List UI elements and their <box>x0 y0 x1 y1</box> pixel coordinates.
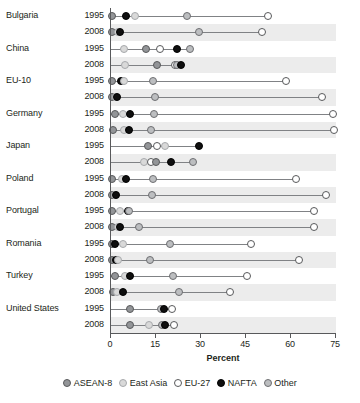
x-axis-line <box>110 333 336 334</box>
data-point-nafta <box>122 175 130 183</box>
country-label: Turkey <box>6 270 33 280</box>
x-tick-label: 30 <box>185 339 215 349</box>
data-point-other <box>186 45 194 53</box>
chart-row: 2008 <box>0 89 360 105</box>
year-label: 2008 <box>78 254 104 264</box>
legend-label: NAFTA <box>228 378 257 388</box>
chart-row: 2008 <box>0 154 360 170</box>
data-point-eu27 <box>329 110 337 118</box>
data-point-asean8 <box>126 305 134 313</box>
country-label: Germany <box>6 108 42 118</box>
year-label: 1995 <box>78 303 104 313</box>
data-point-nafta <box>160 305 168 313</box>
chart-row: 2008 <box>0 284 360 300</box>
chart-row: Japan1995 <box>0 138 360 154</box>
data-point-other <box>149 77 157 85</box>
chart-row: Romania1995 <box>0 236 360 252</box>
chart-row: Germany1995 <box>0 106 360 122</box>
legend-label: East Asia <box>130 378 168 388</box>
data-point-eu27 <box>292 175 300 183</box>
country-label: EU-10 <box>6 75 31 85</box>
country-label: Japan <box>6 140 30 150</box>
data-point-asean8 <box>142 45 150 53</box>
country-label: Romania <box>6 238 41 248</box>
data-point-asean8 <box>108 207 116 215</box>
x-axis-label: Percent <box>110 353 336 363</box>
data-point-nafta <box>126 272 134 280</box>
data-point-nafta <box>125 126 133 134</box>
data-point-east-asia <box>131 12 139 20</box>
country-label: Portugal <box>6 205 39 215</box>
row-connector-line <box>110 81 286 82</box>
data-point-other <box>149 175 157 183</box>
data-point-other <box>166 240 174 248</box>
data-point-east-asia <box>119 240 127 248</box>
data-point-eu27 <box>168 305 176 313</box>
year-label: 1995 <box>78 108 104 118</box>
data-point-eu27 <box>322 191 330 199</box>
data-point-other <box>195 28 203 36</box>
data-point-east-asia <box>145 321 153 329</box>
chart-row: 2008 <box>0 24 360 40</box>
data-point-nafta <box>195 142 203 150</box>
data-point-other <box>150 110 158 118</box>
data-point-asean8 <box>111 110 119 118</box>
data-point-east-asia <box>116 207 124 215</box>
x-tick-label: 60 <box>275 339 305 349</box>
x-tick <box>155 334 156 338</box>
row-connector-line <box>110 130 334 131</box>
data-point-other <box>169 272 177 280</box>
data-point-east-asia <box>120 45 128 53</box>
data-point-east-asia <box>121 61 129 69</box>
x-tick <box>110 334 111 338</box>
row-connector-line <box>110 97 322 98</box>
year-label: 1995 <box>78 173 104 183</box>
legend-item-asean8[interactable]: ASEAN-8 <box>63 378 112 388</box>
row-connector-line <box>110 32 262 33</box>
year-label: 2008 <box>78 59 104 69</box>
row-connector-line <box>110 179 296 180</box>
data-point-eu27 <box>295 256 303 264</box>
x-tick <box>245 334 246 338</box>
data-point-asean8 <box>144 142 152 150</box>
legend-item-eu27[interactable]: EU-27 <box>174 378 210 388</box>
year-label: 1995 <box>78 270 104 280</box>
data-point-other <box>125 207 133 215</box>
chart-row: Poland1995 <box>0 171 360 187</box>
chart-row: 2008 <box>0 317 360 333</box>
data-point-east-asia <box>114 256 122 264</box>
data-point-eu27 <box>170 321 178 329</box>
data-point-other <box>148 191 156 199</box>
year-label: 1995 <box>78 75 104 85</box>
x-tick-label: 15 <box>140 339 170 349</box>
row-connector-line <box>110 195 326 196</box>
chart-row: EU-101995 <box>0 73 360 89</box>
data-point-nafta <box>126 110 134 118</box>
data-point-eu27 <box>282 77 290 85</box>
year-label: 2008 <box>78 91 104 101</box>
data-point-eu27 <box>243 272 251 280</box>
row-connector-line <box>110 292 230 293</box>
legend-label: ASEAN-8 <box>74 378 113 388</box>
legend-label: EU-27 <box>185 378 211 388</box>
chart-row: 2008 <box>0 252 360 268</box>
row-connector-line <box>110 114 333 115</box>
year-label: 2008 <box>78 26 104 36</box>
legend-swatch-icon <box>217 379 225 387</box>
x-tick <box>290 334 291 338</box>
legend-item-other[interactable]: Other <box>264 378 297 388</box>
x-tick-label: 75 <box>320 339 350 349</box>
legend-item-east-asia[interactable]: East Asia <box>119 378 167 388</box>
data-point-asean8 <box>108 12 116 20</box>
legend-item-nafta[interactable]: NAFTA <box>217 378 256 388</box>
row-connector-line <box>110 244 251 245</box>
chart-figure: Bulgaria19952008China19952008EU-10199520… <box>0 0 360 403</box>
chart-row: Bulgaria1995 <box>0 8 360 24</box>
legend-swatch-icon <box>119 379 127 387</box>
year-label: 2008 <box>78 156 104 166</box>
data-point-nafta <box>112 191 120 199</box>
year-label: 1995 <box>78 238 104 248</box>
data-point-other <box>183 12 191 20</box>
legend-label: Other <box>274 378 297 388</box>
data-point-eu27 <box>264 12 272 20</box>
